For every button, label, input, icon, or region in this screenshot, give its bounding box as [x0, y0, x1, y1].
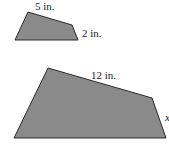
similar-figures-diagram: 5 in. 2 in. 12 in. x — [0, 0, 169, 145]
large-right-side-label: x — [164, 111, 169, 123]
large-top-side-label: 12 in. — [91, 69, 116, 81]
small-quadrilateral: 5 in. 2 in. — [15, 0, 102, 40]
large-quadrilateral: 12 in. x — [14, 68, 169, 138]
small-right-side-label: 2 in. — [82, 27, 102, 39]
small-top-side-label: 5 in. — [35, 0, 55, 12]
